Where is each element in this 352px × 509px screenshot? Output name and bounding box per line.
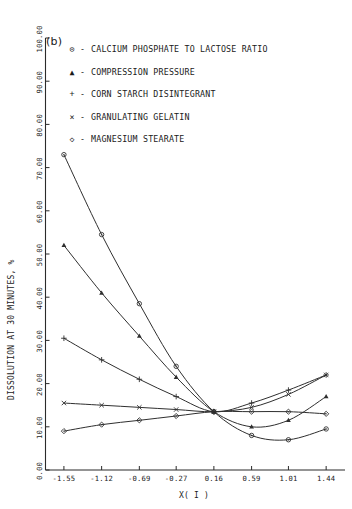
- y-tick-label: 20.00: [35, 373, 44, 396]
- legend-dash: -: [80, 89, 85, 99]
- panel-label: (b): [46, 35, 62, 48]
- legend-item-3: ×-GRANULATING GELATIN: [69, 112, 189, 122]
- series-markers: [61, 335, 329, 414]
- series-line: [64, 245, 326, 427]
- series-1: [62, 243, 329, 429]
- figure-panel-b: 0.0010.0020.0030.0040.0050.0060.0070.008…: [0, 0, 352, 509]
- y-tick-label: 0.00: [35, 462, 44, 480]
- x-tick-label: 0.59: [243, 474, 261, 483]
- y-tick-label: 70.00: [35, 157, 44, 180]
- legend-dash: -: [80, 67, 85, 77]
- y-tick-label: 30.00: [35, 330, 44, 353]
- series-markers: [62, 243, 329, 429]
- x-tick-label: 0.16: [205, 474, 223, 483]
- x-axis-ticks: [64, 466, 326, 470]
- series-line: [64, 338, 326, 412]
- y-axis-title: DISSOLUTION AT 30 MINUTES, %: [7, 260, 16, 400]
- y-tick-label: 60.00: [35, 200, 44, 223]
- series-markers: [62, 373, 329, 414]
- legend-symbol-icon: +: [69, 89, 74, 99]
- legend-dash: -: [80, 44, 85, 54]
- y-tick-label: 10.00: [35, 416, 44, 439]
- x-axis-title: X( I ): [179, 491, 209, 500]
- legend-symbol-icon: ▲: [69, 67, 74, 77]
- legend-label: CALCIUM PHOSPHATE TO LACTOSE RATIO: [91, 44, 268, 54]
- y-tick-label: 80.00: [35, 114, 44, 137]
- series-2: [61, 335, 329, 414]
- x-tick-label: -1.12: [90, 474, 113, 483]
- legend-dash: -: [80, 112, 85, 122]
- series-markers: [62, 152, 329, 442]
- legend-symbol-icon: ×: [69, 112, 74, 122]
- legend-item-0: ⊙-CALCIUM PHOSPHATE TO LACTOSE RATIO: [69, 44, 267, 54]
- x-tick-label: -1.55: [53, 474, 76, 483]
- data-series-group: [61, 152, 329, 442]
- y-tick-label: 90.00: [35, 71, 44, 94]
- x-axis-tick-labels: -1.55-1.12-0.69-0.270.160.591.011.44: [53, 474, 336, 483]
- y-tick-label: 50.00: [35, 244, 44, 267]
- dissolution-line-chart: 0.0010.0020.0030.0040.0050.0060.0070.008…: [0, 0, 352, 509]
- x-tick-label: -0.69: [128, 474, 151, 483]
- legend-item-2: +-CORN STARCH DISINTEGRANT: [69, 89, 215, 99]
- legend-item-4: ◇-MAGNESIUM STEARATE: [69, 134, 184, 144]
- legend-symbol-icon: ⊙: [69, 44, 74, 54]
- series-line: [64, 155, 326, 441]
- x-tick-label: 1.44: [317, 474, 335, 483]
- series-3: [62, 373, 329, 414]
- legend: ⊙-CALCIUM PHOSPHATE TO LACTOSE RATIO▲-CO…: [69, 44, 267, 144]
- legend-label: MAGNESIUM STEARATE: [91, 134, 185, 144]
- y-axis-ticks: [46, 38, 50, 470]
- legend-label: GRANULATING GELATIN: [91, 112, 190, 122]
- y-axis-tick-labels: 0.0010.0020.0030.0040.0050.0060.0070.008…: [35, 25, 44, 480]
- y-tick-label: 40.00: [35, 287, 44, 310]
- x-tick-label: 1.01: [279, 474, 297, 483]
- legend-item-1: ▲-COMPRESSION PRESSURE: [69, 67, 195, 77]
- legend-symbol-icon: ◇: [69, 134, 74, 144]
- legend-label: CORN STARCH DISINTEGRANT: [91, 89, 216, 99]
- x-tick-label: -0.27: [165, 474, 188, 483]
- legend-label: COMPRESSION PRESSURE: [91, 67, 195, 77]
- y-tick-label: 100.00: [35, 25, 44, 52]
- series-0: [62, 152, 329, 442]
- legend-dash: -: [80, 134, 85, 144]
